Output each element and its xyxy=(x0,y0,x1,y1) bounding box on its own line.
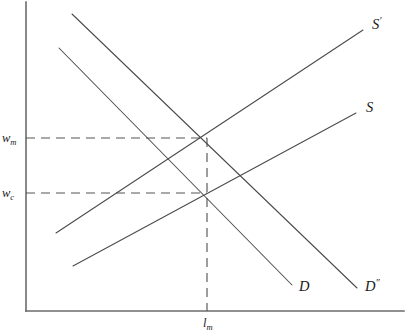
supply-shifted-curve xyxy=(56,30,363,233)
demand-label: D xyxy=(298,278,310,294)
labor-monopsony-label: lm xyxy=(203,316,213,331)
supply-label: S xyxy=(366,99,374,115)
figure-canvas: S′ S D″ D wm wc lm xyxy=(0,0,408,331)
demand-shifted-label: D″ xyxy=(364,277,380,294)
supply-demand-diagram: S′ S D″ D wm wc lm xyxy=(0,0,408,331)
wage-monopsony-label: wm xyxy=(2,131,16,147)
wage-competitive-label: wc xyxy=(2,186,14,202)
demand-shifted-curve xyxy=(72,14,357,288)
supply-shifted-label: S′ xyxy=(372,15,382,32)
supply-curve xyxy=(73,113,356,266)
